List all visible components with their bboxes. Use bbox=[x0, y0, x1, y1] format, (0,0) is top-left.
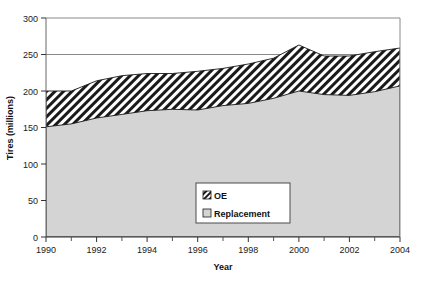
x-tick-label-2002: 2002 bbox=[339, 245, 359, 255]
y-tick-label-300: 300 bbox=[23, 14, 38, 24]
legend-swatch-replacement bbox=[203, 209, 211, 217]
x-axis-title: Year bbox=[213, 262, 233, 272]
y-tick-label-250: 250 bbox=[23, 50, 38, 60]
y-tick-label-100: 100 bbox=[23, 160, 38, 170]
y-axis-title: Tires (millions) bbox=[5, 96, 15, 160]
stacked-area-chart: 0 50 100 150 200 250 300 1990 bbox=[0, 0, 425, 281]
legend-swatch-oe bbox=[203, 191, 211, 199]
x-tick-label-1990: 1990 bbox=[36, 245, 56, 255]
x-tick-label-1992: 1992 bbox=[87, 245, 107, 255]
y-tick-label-50: 50 bbox=[28, 196, 38, 206]
x-tick-label-2000: 2000 bbox=[289, 245, 309, 255]
chart-container: 0 50 100 150 200 250 300 1990 bbox=[0, 0, 425, 281]
legend-label-oe: OE bbox=[214, 191, 227, 201]
y-tick-label-200: 200 bbox=[23, 87, 38, 97]
x-tick-label-2004: 2004 bbox=[390, 245, 410, 255]
legend-label-replacement: Replacement bbox=[214, 209, 270, 219]
y-tick-label-0: 0 bbox=[33, 233, 38, 243]
x-tick-label-1998: 1998 bbox=[238, 245, 258, 255]
legend: OE Replacement bbox=[196, 183, 290, 223]
x-tick-label-1996: 1996 bbox=[188, 245, 208, 255]
y-tick-label-150: 150 bbox=[23, 123, 38, 133]
x-tick-label-1994: 1994 bbox=[137, 245, 157, 255]
